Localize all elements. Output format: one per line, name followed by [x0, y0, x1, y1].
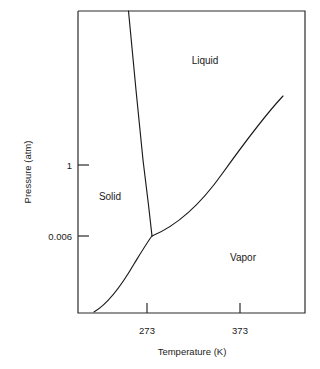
y-axis-title: Pressure (atm) — [22, 141, 33, 204]
x-tick-label-373: 373 — [232, 325, 248, 336]
y-tick-label-1: 1 — [67, 160, 72, 171]
region-label-solid: Solid — [99, 191, 121, 202]
figure-background — [0, 0, 320, 369]
x-tick-label-273: 273 — [139, 325, 155, 336]
region-label-vapor: Vapor — [230, 252, 257, 263]
y-tick-label-0006: 0.006 — [48, 231, 72, 242]
x-axis-title: Temperature (K) — [158, 346, 227, 357]
region-label-liquid: Liquid — [192, 55, 219, 66]
phase-diagram-figure: 1 0.006 273 373 Temperature (K) Pressure… — [0, 0, 320, 369]
